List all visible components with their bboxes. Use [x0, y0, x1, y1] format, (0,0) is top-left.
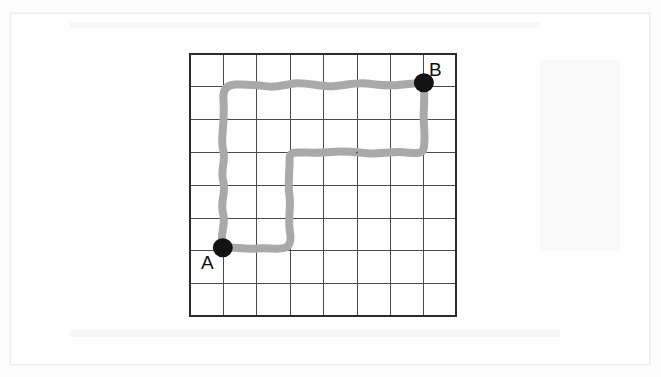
route-path [222, 83, 424, 248]
point-marker-a [213, 238, 233, 257]
grid-and-path-svg [189, 53, 458, 317]
point-label-b: B [429, 60, 442, 79]
stray-mark [356, 151, 358, 153]
grid-path-figure: A B [189, 53, 458, 317]
scan-artifact-top [70, 22, 540, 28]
scan-artifact-bottom [70, 330, 560, 337]
scanned-page: A B [0, 0, 661, 377]
scan-artifact-right [540, 60, 620, 250]
grid-lines [190, 54, 456, 316]
point-label-a: A [201, 253, 214, 272]
